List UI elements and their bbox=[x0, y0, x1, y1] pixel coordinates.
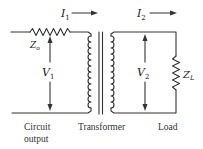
primary-bottom-wire bbox=[12, 108, 91, 113]
i2-arrowhead-icon bbox=[170, 11, 177, 16]
v1-label: V1 bbox=[42, 66, 54, 81]
i1-label: I1 bbox=[60, 7, 70, 22]
secondary-top-wire bbox=[111, 32, 176, 56]
caption-circuit-output-line2: output bbox=[24, 134, 49, 144]
v2-label: V2 bbox=[137, 66, 149, 81]
primary-top-wire-right bbox=[70, 32, 91, 36]
primary-coil-icon bbox=[88, 36, 91, 108]
source-impedance-resistor-icon bbox=[30, 29, 70, 36]
caption-transformer: Transformer bbox=[78, 122, 126, 132]
secondary-coil-icon bbox=[111, 36, 114, 108]
v2-arrowhead-down-icon bbox=[143, 104, 148, 111]
zo-label: Zo bbox=[29, 40, 40, 51]
i1-arrowhead-icon bbox=[91, 11, 98, 16]
transformer-circuit-diagram: I1 I2 Zo V1 V2 ZL Circuit output Transfo… bbox=[0, 0, 203, 149]
caption-circuit-output-line1: Circuit bbox=[24, 122, 51, 132]
v2-arrowhead-up-icon bbox=[143, 34, 148, 41]
v1-arrowhead-down-icon bbox=[48, 104, 53, 111]
secondary-bottom-wire bbox=[111, 90, 176, 113]
v1-arrowhead-up-icon bbox=[48, 36, 53, 43]
caption-load: Load bbox=[158, 122, 178, 132]
load-impedance-resistor-icon bbox=[173, 56, 180, 90]
i2-label: I2 bbox=[136, 7, 146, 22]
zl-label: ZL bbox=[182, 69, 194, 82]
